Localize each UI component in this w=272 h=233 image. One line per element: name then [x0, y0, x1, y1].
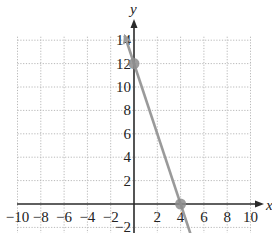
x-tick-label: −6 — [56, 209, 72, 225]
y-tick-label: −2 — [115, 219, 131, 233]
y-tick-label: 2 — [124, 173, 132, 189]
x-tick-label: −8 — [33, 209, 49, 225]
x-tick-label: −10 — [6, 209, 29, 225]
x-axis-label: x — [265, 197, 272, 213]
x-tick-label: 8 — [223, 209, 231, 225]
line-graph: −10−8−6−4−2246810−22468101214 x y — [0, 0, 272, 233]
x-tick-label: 10 — [243, 209, 258, 225]
y-tick-label: 10 — [116, 79, 131, 95]
x-tick-label: 2 — [154, 209, 162, 225]
x-axis-arrow-icon — [255, 201, 264, 208]
x-tick-label: −4 — [79, 209, 95, 225]
y-tick-label: 6 — [124, 126, 132, 142]
intercept-point — [129, 58, 140, 69]
intercept-point — [175, 199, 186, 210]
x-tick-label: 6 — [200, 209, 208, 225]
y-axis-label: y — [128, 1, 137, 17]
y-tick-label: 8 — [124, 102, 132, 118]
y-tick-label: 4 — [124, 149, 132, 165]
y-axis-arrow-icon — [131, 19, 138, 28]
